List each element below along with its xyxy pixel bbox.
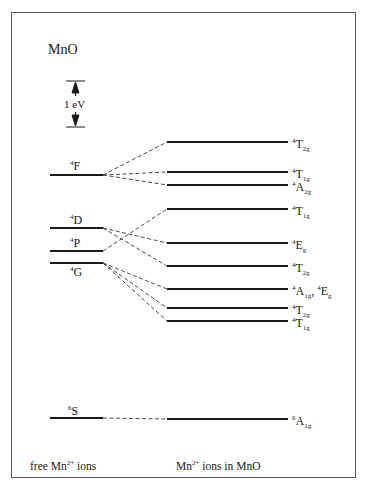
correlation-line (103, 142, 167, 175)
compound-title: MnO (48, 44, 78, 56)
crystal-field-label: 4T2g (292, 262, 310, 274)
crystal-ion-caption: Mn2+ ions in MnO (176, 460, 260, 472)
scale-bar-label: 1 eV (64, 98, 85, 110)
correlation-line (103, 172, 167, 175)
crystal-field-label: 4T1g (292, 205, 310, 217)
correlation-line (103, 263, 167, 289)
correlation-line (103, 263, 167, 321)
correlation-line (103, 228, 167, 243)
crystal-field-label: 4Eg (292, 239, 306, 251)
level-label-6S: 6S (68, 405, 78, 417)
level-label-4D: 4D (70, 214, 82, 226)
correlation-line (103, 228, 167, 266)
level-label-4G: 4G (70, 266, 82, 278)
crystal-field-label: 4A2g (292, 181, 311, 193)
crystal-field-label: 6A1g (292, 415, 311, 427)
crystal-field-label: 4T2g (292, 138, 310, 150)
level-label-4P: 4P (70, 237, 80, 249)
crystal-field-label: 4T1g (292, 168, 310, 180)
level-label-4F: 4F (70, 160, 80, 172)
free-ion-caption: free Mn2+ ions (30, 460, 96, 472)
crystal-field-label: 4T1g (292, 317, 310, 329)
crystal-field-label: 4T2g (292, 304, 310, 316)
correlation-line (103, 418, 167, 419)
crystal-field-label: 4A1g, 4Eg (292, 285, 332, 297)
energy-level-diagram (0, 0, 370, 489)
correlation-line (103, 175, 167, 185)
